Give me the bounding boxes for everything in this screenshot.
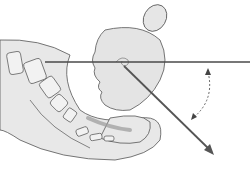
rotation-arrow [193, 72, 210, 118]
fetal-head [93, 28, 166, 111]
rotation-arrow-head-bottom [191, 113, 197, 120]
anatomical-diagram [0, 0, 252, 170]
rotation-arrow-head-top [205, 68, 211, 75]
